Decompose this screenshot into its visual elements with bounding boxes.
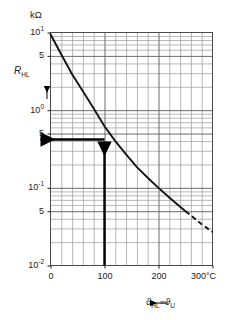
x-axis-title-subscript-1: HL [151, 302, 159, 309]
y-tick-label-mantissa: 10 [28, 182, 38, 192]
y-tick-label: 10-1 [18, 183, 44, 192]
y-tick-label: 5 [18, 207, 44, 216]
plot-frame [51, 33, 213, 266]
y-tick-label-mantissa: 10 [30, 105, 40, 115]
y-tick-label-exponent: -1 [38, 180, 44, 187]
x-axis-title-subscript-2: U [170, 302, 175, 309]
y-tick-label: 101 [18, 28, 44, 37]
chart-container: kΩ RHL ϑHL=ϑU 1015100510-1510-2 01002003… [0, 0, 236, 320]
x-tick-label: 200 [144, 272, 174, 281]
y-axis-title: RHL [14, 66, 30, 76]
grid-major-vertical [105, 33, 159, 266]
y-tick-label-mantissa: 10 [28, 260, 38, 270]
y-tick-label: 5 [18, 129, 44, 138]
y-axis-title-subscript: HL [21, 71, 29, 78]
y-axis-unit-label: kΩ [30, 10, 42, 20]
x-tick-label: 300°C [191, 272, 227, 281]
y-tick-label-mantissa: 5 [39, 206, 44, 216]
grid-minor-vertical [62, 33, 202, 266]
x-axis-title: ϑHL=ϑU [146, 297, 175, 307]
y-tick-label-exponent: 0 [40, 103, 44, 110]
y-tick-label: 100 [18, 106, 44, 115]
y-tick-label-mantissa: 10 [30, 27, 40, 37]
y-tick-label-exponent: 1 [40, 25, 44, 32]
x-tick-label: 0 [36, 272, 66, 281]
y-tick-label: 10-2 [18, 261, 44, 270]
y-tick-label: 5 [18, 51, 44, 60]
y-tick-label-mantissa: 5 [39, 50, 44, 60]
y-tick-label-exponent: -2 [38, 258, 44, 265]
x-tick-label: 100 [90, 272, 120, 281]
y-tick-label-mantissa: 5 [39, 128, 44, 138]
